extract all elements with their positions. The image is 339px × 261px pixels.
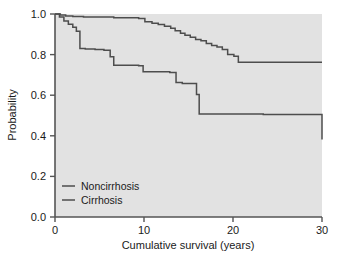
kaplan-meier-survival-chart: 0.00.20.40.60.81.0 0102030 NoncirrhosisC…	[0, 0, 339, 261]
y-axis-ticks: 0.00.20.40.60.81.0	[31, 8, 55, 223]
y-tick-label: 0.0	[31, 211, 46, 223]
y-tick-label: 0.6	[31, 89, 46, 101]
legend-label-cirrhosis: Cirrhosis	[81, 194, 122, 206]
y-axis-title: Probability	[6, 89, 18, 141]
chart-canvas: 0.00.20.40.60.81.0 0102030 NoncirrhosisC…	[0, 0, 339, 261]
y-tick-label: 0.8	[31, 49, 46, 61]
y-tick-label: 0.2	[31, 170, 46, 182]
x-axis-ticks: 0102030	[52, 217, 328, 236]
x-tick-label: 30	[316, 224, 328, 236]
legend-label-noncirrhosis: Noncirrhosis	[81, 180, 139, 192]
x-tick-label: 0	[52, 224, 58, 236]
x-tick-label: 10	[138, 224, 150, 236]
y-tick-label: 0.4	[31, 130, 46, 142]
y-tick-label: 1.0	[31, 8, 46, 20]
x-tick-label: 20	[227, 224, 239, 236]
x-axis-title: Cumulative survival (years)	[122, 239, 255, 251]
